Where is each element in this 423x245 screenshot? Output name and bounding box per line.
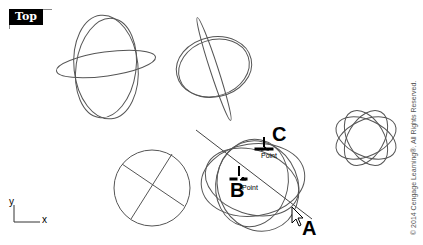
axis-y-label: y bbox=[9, 197, 14, 207]
snap-label-b: Point bbox=[242, 184, 258, 191]
axis-x-label: x bbox=[42, 215, 47, 225]
callout-a: A bbox=[302, 218, 316, 238]
copyright-notice: © 2014 Cengage Learning®. All Rights Res… bbox=[410, 81, 417, 235]
sphere-object-2[interactable] bbox=[171, 16, 258, 121]
snap-marker-b bbox=[230, 166, 247, 180]
circle-object-3[interactable] bbox=[114, 150, 190, 226]
callout-c: C bbox=[272, 124, 286, 144]
sphere-object-5[interactable] bbox=[329, 103, 402, 173]
viewport-title-tab[interactable]: Top bbox=[9, 9, 43, 25]
sphere-object-1[interactable] bbox=[55, 12, 157, 122]
axes-icon bbox=[14, 205, 40, 222]
top-viewport[interactable]: Top C Point B Point A y x © 2014 Cengage… bbox=[0, 0, 423, 245]
viewport-geometry bbox=[0, 0, 423, 245]
snap-label-c: Point bbox=[261, 152, 277, 159]
